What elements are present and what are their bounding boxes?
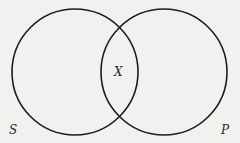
set-label-p: P [221, 124, 229, 136]
intersection-mark: X [114, 66, 123, 78]
set-label-s: S [9, 124, 17, 136]
venn-diagram: X S P [0, 0, 240, 143]
